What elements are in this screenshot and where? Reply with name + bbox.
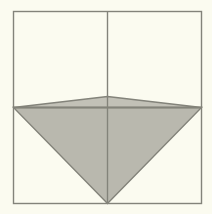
figure-canvas xyxy=(0,0,212,214)
geometric-figure xyxy=(0,0,212,214)
